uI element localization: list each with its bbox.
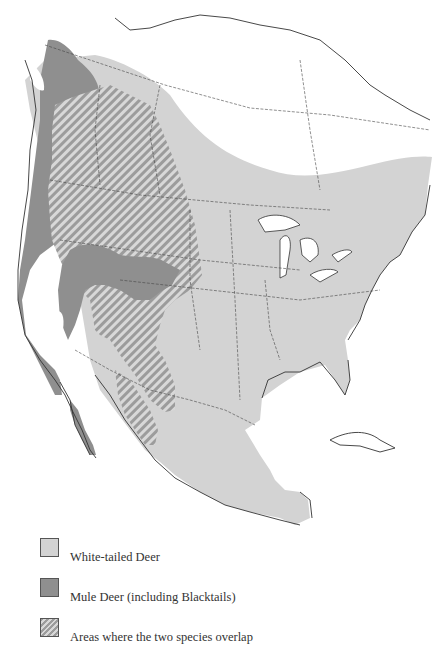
mule-deer-swatch	[40, 578, 59, 597]
legend-label: Mule Deer (including Blacktails)	[70, 590, 236, 605]
range-map	[0, 0, 438, 530]
legend-item-white-tailed: White-tailed Deer	[40, 538, 160, 557]
white-tailed-swatch	[40, 538, 59, 557]
legend-item-overlap: Areas where the two species overlap	[40, 618, 253, 637]
overlap-swatch	[40, 618, 59, 637]
legend-label: White-tailed Deer	[70, 550, 160, 565]
legend-label: Areas where the two species overlap	[70, 630, 253, 645]
legend-item-mule: Mule Deer (including Blacktails)	[40, 578, 236, 597]
